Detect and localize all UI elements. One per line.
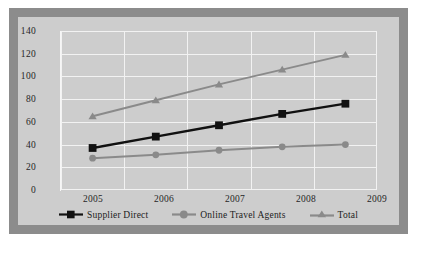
legend-label: Online Travel Agents [200,210,285,220]
legend-label: Total [338,210,358,220]
data-point [341,51,349,58]
y-tick-label: 100 [8,71,36,81]
data-point [152,133,160,141]
data-point [278,110,286,118]
y-tick-label: 80 [8,94,36,104]
legend-item-supplier-direct[interactable]: Supplier Direct [59,209,148,220]
legend-marker-square-icon [59,209,83,220]
legend-marker-triangle-icon [310,209,334,220]
x-tick-label: 2008 [284,194,328,204]
x-tick-label: 2007 [213,194,257,204]
y-tick-label: 60 [8,117,36,127]
data-point [89,155,96,162]
y-tick-label: 120 [8,49,36,59]
chart-legend: Supplier Direct Online Travel Agents Tot… [18,209,399,220]
x-tick-label: 2005 [71,194,115,204]
data-point [89,144,97,152]
data-point [216,147,223,154]
y-tick-label: 20 [8,162,36,172]
data-point [215,121,223,129]
data-point [279,143,286,150]
x-tick-label: 2006 [142,194,186,204]
chart-figure: 140 120 100 80 60 40 20 0 2005 2006 2007… [9,8,408,234]
series-svg [61,31,377,190]
data-point [152,151,159,158]
data-point [342,141,349,148]
legend-item-online-travel-agents[interactable]: Online Travel Agents [172,209,285,220]
legend-marker-circle-icon [172,209,196,220]
chart-plot-card: 140 120 100 80 60 40 20 0 2005 2006 2007… [18,17,399,225]
legend-item-total[interactable]: Total [310,209,358,220]
y-tick-label: 140 [8,26,36,36]
y-tick-label: 0 [8,185,36,195]
x-tick-label: 2009 [355,194,399,204]
series-online-travel-agents [89,141,349,161]
legend-label: Supplier Direct [87,210,148,220]
y-tick-label: 40 [8,140,36,150]
data-point [342,100,350,108]
plot-area [61,31,377,190]
